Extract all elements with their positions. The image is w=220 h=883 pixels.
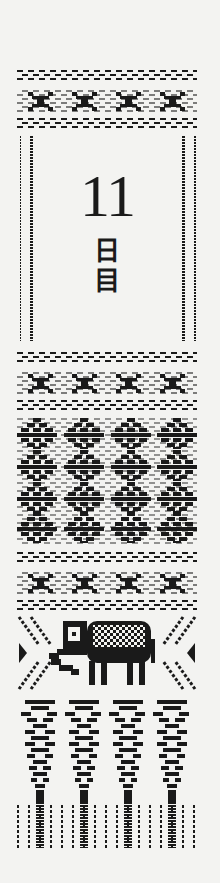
fringe-pattern-band [17,700,197,848]
diamond-pattern-band [17,418,197,544]
day-number: 11 [17,166,197,226]
lower-pattern-band [17,552,197,614]
elephant-pattern-band [17,615,197,691]
fringe-pattern-icon [17,700,197,848]
bowtie-pattern-icon [17,70,197,132]
bowtie-pattern-icon [17,352,197,414]
bowtie-pattern-icon [17,552,197,614]
diamond-pattern-icon [17,418,197,544]
unit-char-1: 日 [17,236,197,266]
elephant-icon [17,615,197,691]
day-unit-label: 日 目 [17,236,197,296]
top-pattern-band [17,70,197,132]
day-card: 11 日 目 [17,136,197,344]
unit-char-2: 目 [17,266,197,296]
middle-pattern-band [17,352,197,414]
